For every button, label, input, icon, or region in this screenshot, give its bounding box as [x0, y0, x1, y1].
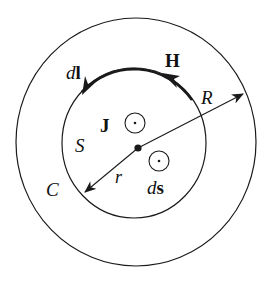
outer-circle-radius-R [16, 18, 256, 266]
label-J: J [100, 115, 110, 136]
label-r: r [115, 167, 123, 187]
label-ds: ds [147, 177, 164, 198]
current-density-dot-icon [125, 113, 145, 133]
label-dl: dl [66, 62, 81, 83]
radius-r-arrow [85, 148, 138, 192]
center-point [134, 144, 141, 151]
label-H: H [165, 50, 180, 71]
surface-element-dot-icon [149, 151, 169, 171]
label-R: R [200, 87, 213, 108]
radius-R-arrow [138, 94, 243, 148]
ampere-law-diagram: dl H R J S C r ds [0, 0, 270, 286]
label-C: C [46, 179, 59, 200]
label-S: S [75, 135, 85, 156]
